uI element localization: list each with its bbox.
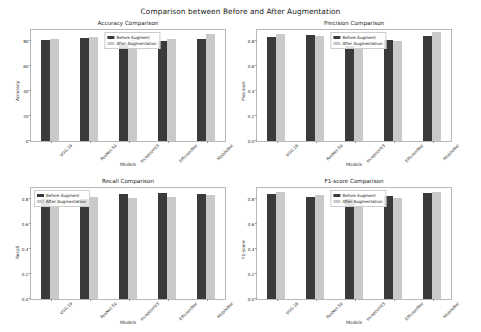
bar-before-augment	[423, 36, 432, 141]
bar-after-augmentation	[89, 37, 98, 141]
legend-label: After Augmentation	[342, 199, 382, 205]
x-axis-tick-mark	[355, 141, 356, 143]
y-axis-tick-label: 0.8	[248, 196, 255, 201]
bar-after-augmentation	[167, 197, 176, 299]
x-axis-tick-label: MobileNet	[216, 301, 234, 319]
bar-before-augment	[80, 199, 89, 299]
bar-after-augmentation	[393, 41, 402, 141]
x-axis-tick-label: ResNet-50	[325, 301, 344, 320]
x-axis-label: Models	[31, 162, 225, 167]
bar-group	[267, 188, 285, 299]
bar-after-augmentation	[167, 39, 176, 141]
x-axis-tick-mark	[316, 141, 317, 143]
bar-group	[423, 188, 441, 299]
chart-title: Accuracy Comparison	[30, 20, 226, 26]
bar-before-augment	[119, 194, 128, 299]
x-axis-label: Models	[257, 162, 451, 167]
bar-after-augmentation	[276, 192, 285, 299]
bar-after-augmentation	[50, 198, 59, 299]
bar-before-augment	[41, 40, 50, 141]
legend-swatch-after-icon	[333, 42, 340, 45]
bar-group	[267, 30, 285, 141]
y-axis-label: Recall	[15, 245, 20, 258]
y-axis-tick-label: 0.6	[248, 63, 255, 68]
bar-group	[80, 30, 98, 141]
y-axis-label: Precision	[241, 81, 246, 101]
bar-after-augmentation	[432, 32, 441, 141]
bar-before-augment	[267, 194, 276, 299]
x-axis-tick-label: ResNet-50	[99, 301, 118, 320]
chart-panel: F1-score Comparison0.00.20.40.60.8F1-sco…	[256, 178, 452, 325]
chart-title: F1-score Comparison	[256, 178, 452, 184]
plot-area: 0.00.20.40.60.8RecallVGG-19ResNet-50Ince…	[30, 187, 226, 300]
chart-panel: Precision Comparison0.00.20.40.60.8Preci…	[256, 20, 452, 167]
bar-group	[423, 30, 441, 141]
figure-canvas: Comparison between Before and After Augm…	[0, 0, 481, 332]
x-axis-tick-mark	[433, 141, 434, 143]
figure-suptitle: Comparison between Before and After Augm…	[0, 7, 481, 16]
chart-title: Recall Comparison	[30, 178, 226, 184]
y-axis-tick-label: 80	[23, 38, 28, 43]
x-axis-tick-label: InceptionV3	[365, 301, 386, 322]
chart-legend: Before AugmentAfter Augmentation	[330, 32, 386, 49]
x-axis-tick-label: MobileNet	[216, 143, 234, 161]
x-axis-tick-label: EfficientNet	[404, 301, 424, 321]
x-axis-tick-label: ResNet-50	[99, 143, 118, 162]
bar-after-augmentation	[354, 45, 363, 141]
x-axis-label: Models	[31, 320, 225, 325]
bar-before-augment	[158, 193, 167, 299]
bar-group	[197, 188, 215, 299]
bar-before-augment	[384, 196, 393, 299]
bar-after-augmentation	[276, 34, 285, 141]
x-axis-tick-label: InceptionV3	[365, 143, 386, 164]
x-axis-tick-mark	[355, 299, 356, 301]
x-axis-tick-mark	[394, 141, 395, 143]
x-axis-tick-label: VGG-19	[58, 301, 73, 316]
x-axis-tick-mark	[277, 299, 278, 301]
plot-area: 020406080AccuracyVGG-19ResNet-50Inceptio…	[30, 29, 226, 142]
bar-before-augment	[158, 41, 167, 141]
x-axis-tick-mark	[129, 141, 130, 143]
x-axis-tick-mark	[433, 299, 434, 301]
x-axis-tick-label: InceptionV3	[139, 301, 160, 322]
x-axis-ticks: VGG-19ResNet-50InceptionV3EfficientNetMo…	[31, 299, 225, 329]
x-axis-ticks: VGG-19ResNet-50InceptionV3EfficientNetMo…	[257, 299, 451, 329]
bar-before-augment	[41, 199, 50, 299]
legend-label: After Augmentation	[116, 41, 156, 47]
x-axis-ticks: VGG-19ResNet-50InceptionV3EfficientNetMo…	[31, 141, 225, 171]
bar-before-augment	[306, 35, 315, 141]
bar-before-augment	[80, 38, 89, 141]
y-axis-tick-label: 0	[26, 139, 29, 144]
legend-swatch-before-icon	[37, 194, 44, 197]
bar-after-augmentation	[315, 195, 324, 299]
y-axis-label: Accuracy	[15, 80, 20, 100]
bar-before-augment	[306, 197, 315, 299]
chart-panel: Recall Comparison0.00.20.40.60.8RecallVG…	[30, 178, 226, 325]
x-axis-tick-mark	[90, 299, 91, 301]
x-axis-tick-mark	[168, 141, 169, 143]
y-axis-label: F1-score	[241, 240, 246, 259]
chart-title: Precision Comparison	[256, 20, 452, 26]
y-axis-tick-label: 0.6	[22, 221, 29, 226]
legend-label: After Augmentation	[46, 199, 86, 205]
y-axis-tick-label: 0.2	[248, 271, 255, 276]
legend-swatch-after-icon	[37, 200, 44, 203]
plot-area: 0.00.20.40.60.8PrecisionVGG-19ResNet-50I…	[256, 29, 452, 142]
x-axis-tick-label: EfficientNet	[178, 143, 198, 163]
bar-before-augment	[119, 45, 128, 141]
x-axis-ticks: VGG-19ResNet-50InceptionV3EfficientNetMo…	[257, 141, 451, 171]
bar-before-augment	[197, 194, 206, 299]
x-axis-tick-mark	[51, 141, 52, 143]
bar-after-augmentation	[128, 40, 137, 141]
bar-before-augment	[345, 46, 354, 141]
y-axis-tick-label: 0.8	[248, 38, 255, 43]
legend-swatch-before-icon	[333, 36, 340, 39]
x-axis-tick-mark	[51, 299, 52, 301]
bar-after-augmentation	[206, 195, 215, 299]
bar-before-augment	[197, 39, 206, 141]
x-axis-tick-label: MobileNet	[442, 301, 460, 319]
x-axis-tick-mark	[316, 299, 317, 301]
bar-group	[41, 30, 59, 141]
bar-after-augmentation	[89, 197, 98, 299]
y-axis-tick-label: 0.4	[22, 246, 29, 251]
